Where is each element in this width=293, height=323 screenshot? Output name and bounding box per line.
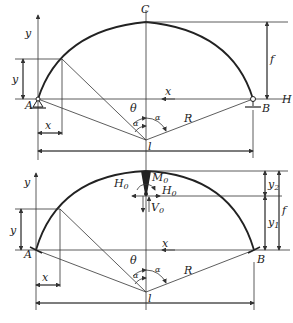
- label-support-a: A: [23, 248, 32, 261]
- arch-diagrams: C A B H y x y x f R θ α α l: [0, 0, 293, 323]
- label-angle-alpha-left: α: [133, 119, 139, 128]
- label-thrust-h0-left: H0: [113, 177, 129, 191]
- label-radius-r: R: [183, 112, 192, 125]
- top-arch-diagram: C A B H y x y x f R θ α α l: [11, 3, 292, 160]
- label-y2: y2: [267, 178, 279, 192]
- label-x-abscissa: x: [42, 271, 49, 284]
- label-y-ordinate: y: [11, 73, 19, 86]
- label-x-axis: x: [162, 237, 169, 250]
- label-angle-theta: θ: [130, 254, 137, 267]
- label-y-axis: y: [23, 176, 31, 189]
- label-thrust-h: H: [281, 93, 292, 106]
- label-rise-f: f: [281, 204, 288, 217]
- bottom-arch-diagram: A B y x y x M0 H0 H0 V0 y2 y1 f R θ α α …: [9, 160, 290, 310]
- label-angle-alpha-right: α: [155, 265, 161, 274]
- label-y1: y1: [267, 216, 279, 230]
- label-y-ordinate: y: [9, 224, 17, 237]
- label-radius-r: R: [183, 264, 192, 277]
- label-span-l: l: [148, 140, 152, 153]
- label-x-axis: x: [165, 85, 172, 98]
- label-support-b: B: [261, 102, 270, 115]
- label-span-l: l: [148, 292, 152, 305]
- label-x-abscissa: x: [45, 119, 52, 132]
- label-rise-f: f: [269, 53, 276, 66]
- label-crown-c: C: [141, 3, 150, 16]
- label-angle-alpha-left: α: [133, 271, 139, 280]
- label-support-b: B: [256, 253, 265, 266]
- label-y-axis: y: [24, 27, 32, 40]
- label-angle-theta: θ: [130, 102, 137, 115]
- label-shear-v0: V0: [151, 201, 164, 215]
- label-angle-alpha-right: α: [155, 113, 161, 122]
- pin-support-b: [245, 97, 261, 108]
- label-support-a: A: [24, 99, 33, 112]
- arch-curve: [38, 22, 253, 99]
- label-thrust-h0-right: H0: [161, 184, 177, 198]
